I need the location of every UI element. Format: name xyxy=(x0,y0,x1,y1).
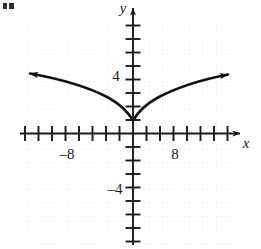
y-tick-label-4: 4 xyxy=(112,68,120,84)
x-tick-label-negative-8: –8 xyxy=(59,146,75,162)
x-axis-label: x xyxy=(242,135,250,151)
coordinate-plane: 4 –4 –8 8 x y xyxy=(0,0,261,249)
corner-mark xyxy=(3,3,14,9)
x-tick-label-8: 8 xyxy=(171,146,179,162)
graph-figure: 4 –4 –8 8 x y xyxy=(0,0,261,249)
y-axis-label: y xyxy=(118,0,127,16)
y-tick-label-negative-4: –4 xyxy=(107,181,124,197)
